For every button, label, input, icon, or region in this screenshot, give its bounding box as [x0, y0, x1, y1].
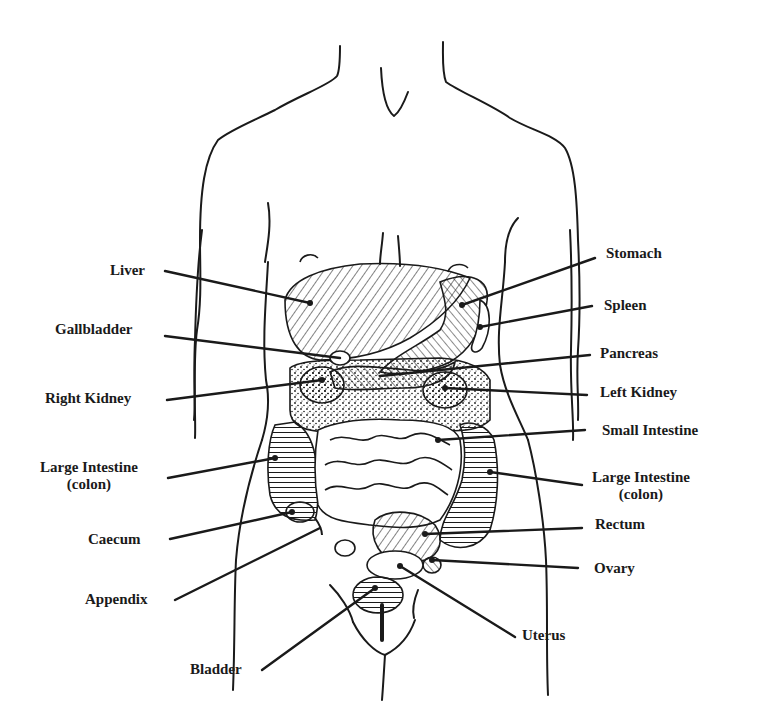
- label-liver: Liver: [110, 262, 145, 279]
- label-rectum: Rectum: [595, 516, 645, 533]
- label-bladder: Bladder: [190, 661, 242, 678]
- label-appendix: Appendix: [85, 591, 148, 608]
- torso-illustration: [0, 0, 765, 725]
- label-pancreas: Pancreas: [600, 345, 658, 362]
- label-stomach: Stomach: [606, 245, 662, 262]
- label-small-intestine: Small Intestine: [602, 422, 698, 439]
- label-large-intestine-left: Large Intestine (colon): [40, 459, 138, 493]
- label-large-intestine-right-text: Large Intestine: [592, 469, 690, 485]
- label-large-intestine-right: Large Intestine (colon): [592, 469, 690, 503]
- label-spleen: Spleen: [604, 297, 647, 314]
- label-uterus: Uterus: [522, 627, 565, 644]
- label-ovary: Ovary: [594, 560, 635, 577]
- label-caecum: Caecum: [88, 531, 141, 548]
- label-left-kidney: Left Kidney: [600, 384, 677, 401]
- label-large-intestine-left-sub: (colon): [40, 476, 138, 493]
- organs: [268, 255, 498, 613]
- label-large-intestine-left-text: Large Intestine: [40, 459, 138, 475]
- label-gallbladder: Gallbladder: [55, 321, 133, 338]
- label-right-kidney: Right Kidney: [45, 390, 131, 407]
- anatomy-diagram: Liver Gallbladder Right Kidney Large Int…: [0, 0, 765, 725]
- label-large-intestine-right-sub: (colon): [592, 486, 690, 503]
